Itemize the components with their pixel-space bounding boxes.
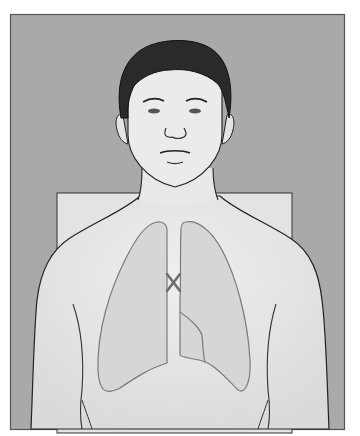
face	[128, 62, 222, 187]
right-eye	[189, 108, 201, 113]
left-eye	[148, 108, 160, 113]
chest-illustration	[0, 0, 360, 436]
